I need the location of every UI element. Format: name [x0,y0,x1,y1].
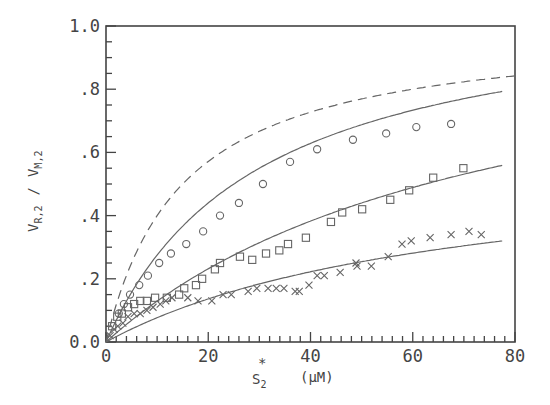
y-axis-label: VR,2/VM,2 [25,151,44,232]
x-label-unit: (µM) [300,369,334,385]
marker-circle [156,259,163,266]
marker-circle [314,146,321,153]
svg-text:VR,2/VM,2: VR,2/VM,2 [25,151,44,232]
marker-cross [305,282,312,289]
x-tick-label: 60 [403,346,423,366]
marker-cross [427,234,434,241]
marker-circle [144,272,151,279]
marker-cross [408,237,415,244]
x-axis-ticks: 020406080 [101,332,525,366]
x-tick-label: 0 [101,346,111,366]
y-tick-label: 1.0 [69,16,100,36]
y-axis-ticks: 0.0.2.4.6.81.0 [69,16,116,352]
x-axis-label: S2 [252,371,266,390]
marker-cross [208,297,215,304]
marker-cross [184,294,191,301]
marker-cross [368,263,375,270]
marker-square [359,206,366,213]
marker-circle [447,120,454,127]
marker-square [387,196,394,203]
y-label-sep: / [25,187,41,195]
marker-cross [265,285,272,292]
x-label-main: S [252,371,260,387]
marker-square [460,165,467,172]
marker-cross [296,288,303,295]
y-tick-label: 0.0 [69,332,100,352]
marker-cross [337,269,344,276]
marker-cross [399,241,406,248]
marker-circle [235,199,242,206]
marker-cross [478,231,485,238]
marker-cross [321,272,328,279]
data-markers [107,120,485,339]
curve-fit-crosses [106,241,502,342]
marker-cross [448,231,455,238]
marker-circle [383,130,390,137]
curve-fit-squares [106,165,502,342]
marker-circle [349,136,356,143]
x-label-sup: * [258,355,266,371]
marker-circle [413,124,420,131]
marker-square [262,250,269,257]
chart: 0.0.2.4.6.81.0 020406080 S2 * (µM) VR,2/… [0,0,550,405]
marker-cross [314,272,321,279]
marker-square [430,174,437,181]
marker-cross [253,285,260,292]
x-tick-label: 40 [300,346,320,366]
marker-circle [216,212,223,219]
marker-cross [137,310,144,317]
curve-fit-circles [106,91,502,342]
marker-square [327,218,334,225]
marker-cross [245,288,252,295]
marker-circle [286,158,293,165]
y-tick-label: .8 [80,79,100,99]
y-label-num-sub: R,2 [33,206,44,224]
marker-square [249,256,256,263]
y-tick-label: .4 [80,206,100,226]
marker-cross [465,228,472,235]
marker-circle [259,180,266,187]
x-tick-label: 80 [505,346,525,366]
y-label-den-sub: M,2 [33,151,44,169]
marker-circle [167,250,174,257]
x-label-sub: 2 [260,379,266,390]
marker-square [284,240,291,247]
marker-square [236,253,243,260]
y-tick-label: .2 [80,269,100,289]
marker-cross [280,285,287,292]
x-tick-label: 20 [198,346,218,366]
marker-cross [273,285,280,292]
marker-circle [200,228,207,235]
y-tick-label: .6 [80,142,100,162]
marker-square [302,234,309,241]
marker-circle [183,240,190,247]
marker-cross [292,288,299,295]
marker-square [276,247,283,254]
